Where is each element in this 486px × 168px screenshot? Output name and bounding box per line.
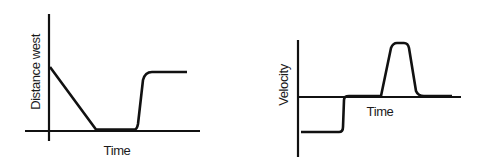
velocity-time-graph: Velocity Time — [276, 40, 461, 157]
diagram-canvas: Distance west Time Velocity Time — [0, 0, 486, 168]
right-xlabel: Time — [367, 104, 394, 119]
right-ylabel: Velocity — [276, 63, 291, 106]
distance-curve — [50, 67, 187, 130]
left-xlabel: Time — [104, 143, 131, 158]
left-ylabel: Distance west — [28, 33, 43, 110]
distance-time-graph: Distance west Time — [25, 14, 200, 158]
